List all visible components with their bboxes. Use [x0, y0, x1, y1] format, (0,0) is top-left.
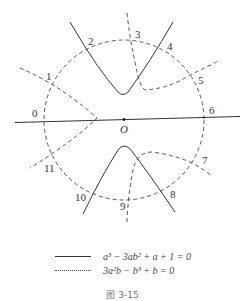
point-label-11: 11 [44, 162, 55, 174]
point-label-0: 0 [32, 107, 38, 119]
legend-solid: a³ − 3ab² + a + 1 = 0 [55, 249, 191, 263]
legend-solid-equation: a³ − 3ab² + a + 1 = 0 [103, 251, 191, 262]
real-axis-line [15, 117, 240, 123]
point-label-5: 5 [198, 74, 204, 86]
point-label-1: 1 [46, 70, 52, 82]
point-label-7: 7 [202, 154, 208, 166]
point-label-6: 6 [209, 104, 215, 116]
solid-curve-upper [70, 22, 173, 95]
figure-caption: 图 3-15 [0, 288, 245, 301]
point-label-2: 2 [88, 35, 94, 47]
dashed-line-swatch [55, 270, 91, 271]
origin-point [123, 118, 126, 121]
origin-label: O [120, 123, 128, 135]
point-label-8: 8 [170, 188, 176, 200]
point-label-9: 9 [120, 200, 126, 212]
point-label-3: 3 [135, 28, 141, 40]
point-label-10: 10 [75, 191, 87, 203]
solid-curve-lower [83, 146, 175, 214]
solid-line-swatch [55, 256, 91, 257]
legend-dashed-equation: 3a²b − b³ + b = 0 [103, 265, 174, 276]
dashed-curve-11-9 [50, 155, 203, 197]
point-label-4: 4 [167, 40, 173, 52]
legend-dashed: 3a²b − b³ + b = 0 [55, 263, 174, 277]
dashed-curve-3-5 [127, 13, 220, 90]
